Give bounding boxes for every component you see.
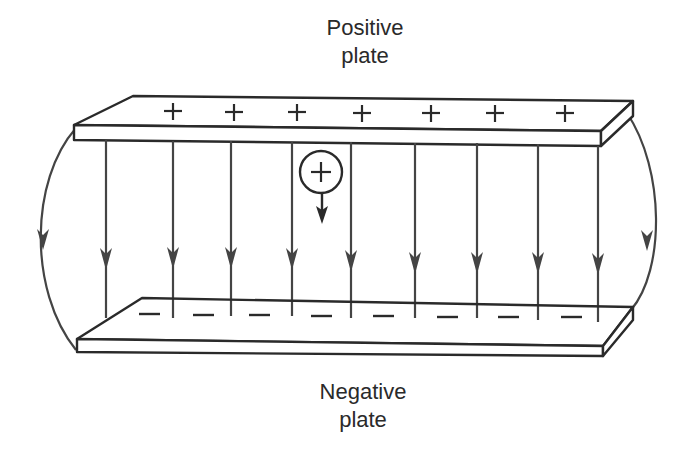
arrowhead-right <box>641 230 653 251</box>
negative-label-line2: plate <box>263 406 463 434</box>
positive-test-charge <box>300 151 342 224</box>
negative-label-line1: Negative <box>263 378 463 406</box>
negative-plate-front-face <box>77 339 603 356</box>
negative-plate-top-face <box>77 298 633 346</box>
negative-charges <box>139 314 582 317</box>
negative-plate-label: Negative plate <box>263 378 463 434</box>
arrowhead-left <box>37 229 49 250</box>
fringe-line-right <box>627 113 656 310</box>
fringe-field-lines <box>41 113 656 350</box>
negative-plate-end-face <box>603 307 633 356</box>
fringe-arrowheads <box>37 229 653 251</box>
positive-plate <box>74 96 633 146</box>
field-lines <box>106 140 598 322</box>
negative-plate <box>77 298 633 356</box>
